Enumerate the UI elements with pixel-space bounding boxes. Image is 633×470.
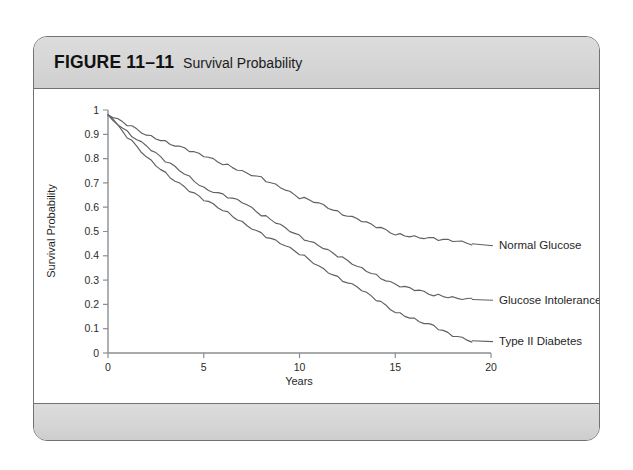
x-axis-ticks: 05101520 xyxy=(105,353,497,373)
y-tick-label: 0.2 xyxy=(84,298,99,310)
chart-series-curves xyxy=(108,115,472,342)
x-tick-label: 0 xyxy=(105,361,111,373)
axes-group xyxy=(108,110,491,353)
figure-footer xyxy=(34,403,599,440)
x-tick-label: 10 xyxy=(294,361,306,373)
survival-probability-line-chart: 00.10.20.30.40.50.60.70.80.91 05101520 N… xyxy=(34,89,600,406)
y-tick-label: 0 xyxy=(93,347,99,359)
series-curve xyxy=(108,115,472,342)
figure-card: FIGURE 11–11 Survival Probability 00.10.… xyxy=(33,36,600,441)
series-leader-line xyxy=(472,341,493,342)
y-tick-label: 0.9 xyxy=(84,128,99,140)
y-tick-label: 0.4 xyxy=(84,249,99,261)
series-label: Normal Glucose xyxy=(499,239,581,251)
series-label: Type II Diabetes xyxy=(499,335,582,347)
series-curve xyxy=(108,115,472,245)
series-curve xyxy=(108,115,472,300)
x-axis-title: Years xyxy=(285,375,313,387)
x-tick-label: 5 xyxy=(201,361,207,373)
figure-header: FIGURE 11–11 Survival Probability xyxy=(34,37,599,89)
figure-number-label: FIGURE 11–11 xyxy=(54,52,174,73)
series-leader-line xyxy=(472,244,493,246)
series-leader-line xyxy=(472,300,493,301)
y-tick-label: 0.7 xyxy=(84,177,99,189)
y-tick-label: 1 xyxy=(93,104,99,116)
y-tick-label: 0.8 xyxy=(84,152,99,164)
y-tick-label: 0.1 xyxy=(84,322,99,334)
x-tick-label: 15 xyxy=(389,361,401,373)
chart-series-labels: Normal GlucoseGlucose IntoleranceType II… xyxy=(472,239,600,347)
y-tick-label: 0.5 xyxy=(84,225,99,237)
series-label: Glucose Intolerance xyxy=(499,294,600,306)
chart-plot-area: 00.10.20.30.40.50.60.70.80.91 05101520 N… xyxy=(34,89,599,406)
y-axis-ticks: 00.10.20.30.40.50.60.70.80.91 xyxy=(84,104,108,359)
figure-caption: Survival Probability xyxy=(183,55,302,71)
y-axis-title: Survival Probability xyxy=(45,184,57,278)
x-tick-label: 20 xyxy=(485,361,497,373)
y-tick-label: 0.3 xyxy=(84,274,99,286)
y-tick-label: 0.6 xyxy=(84,201,99,213)
